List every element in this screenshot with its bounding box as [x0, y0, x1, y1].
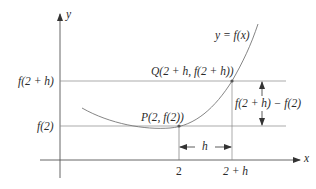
x-tick-2-plus-h: 2 + h [223, 166, 248, 178]
secant-diagram: y x y = f(x) Q(2 + h, f(2 + h)) P(2, f(2… [0, 0, 316, 189]
h-span-label: h [202, 141, 208, 153]
point-p-label: P(2, f(2)) [141, 112, 184, 124]
x-axis-label: x [304, 153, 309, 165]
point-p [177, 124, 180, 127]
y-axis-label: y [66, 9, 71, 21]
point-q [230, 79, 233, 82]
x-tick-2: 2 [176, 166, 182, 178]
curve-label: y = f(x) [215, 30, 250, 42]
y-tick-f-2: f(2) [37, 121, 54, 133]
y-tick-f-2-plus-h: f(2 + h) [18, 76, 54, 88]
difference-span-label: f(2 + h) − f(2) [234, 98, 302, 110]
point-q-label: Q(2 + h, f(2 + h)) [151, 66, 234, 78]
